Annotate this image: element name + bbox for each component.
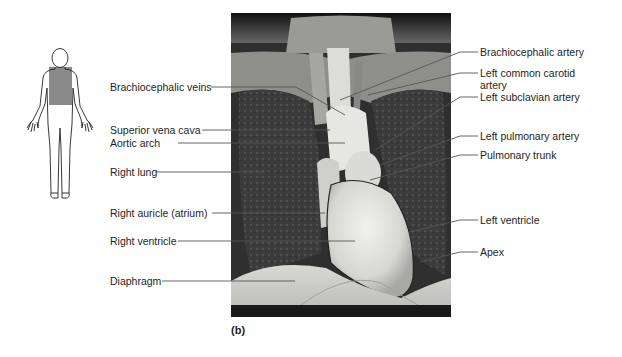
label-diaphragm: Diaphragm [110, 275, 161, 287]
label-right-lung: Right lung [110, 166, 157, 178]
label-left-common-carotid-artery: Left common carotid [480, 67, 575, 79]
label-left-common-carotid-artery-line2: artery [480, 79, 507, 91]
label-brachiocephalic-artery: Brachiocephalic artery [480, 46, 584, 58]
label-apex: Apex [480, 246, 504, 258]
label-left-subclavian-artery: Left subclavian artery [480, 91, 580, 103]
cadaver-thorax-photo [231, 13, 451, 317]
thorax-highlight [49, 67, 72, 105]
label-pulmonary-trunk: Pulmonary trunk [480, 149, 556, 161]
label-superior-vena-cava: Superior vena cava [110, 124, 200, 136]
label-right-ventricle: Right ventricle [110, 235, 177, 247]
label-left-ventricle: Left ventricle [480, 214, 540, 226]
label-aortic-arch: Aortic arch [110, 137, 160, 149]
body-orientation-icon [0, 48, 110, 200]
label-left-pulmonary-artery: Left pulmonary artery [480, 130, 579, 142]
panel-label: (b) [231, 324, 245, 336]
label-brachiocephalic-veins: Brachiocephalic veins [110, 81, 212, 93]
label-right-auricle: Right auricle (atrium) [110, 207, 207, 219]
